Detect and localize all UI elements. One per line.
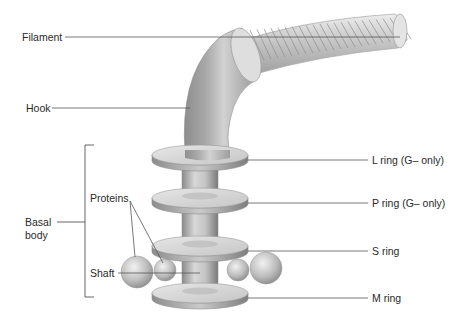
hook-label: Hook	[26, 102, 51, 114]
shaft	[182, 165, 218, 298]
protein-sphere	[121, 256, 153, 288]
proteins-label: Proteins	[90, 192, 129, 204]
l-ring-label: L ring (G– only)	[372, 154, 444, 166]
protein-sphere	[154, 259, 176, 281]
p-ring	[152, 188, 248, 214]
shaft-section	[182, 288, 218, 295]
basal-body-label-line1: Basal	[25, 216, 51, 228]
m-ring	[152, 283, 248, 309]
shaft-section	[182, 193, 218, 200]
protein-sphere	[227, 259, 249, 281]
shaft-section	[182, 241, 218, 248]
filament-label: Filament	[22, 31, 62, 43]
basal-body-bracket	[57, 145, 94, 297]
shaft-label: Shaft	[90, 267, 115, 279]
protein-sphere	[250, 252, 282, 284]
basal-body-label-line2: body	[25, 229, 48, 241]
s-ring	[152, 236, 248, 262]
p-ring-label: P ring (G– only)	[372, 197, 445, 209]
m-ring-label: M ring	[372, 292, 401, 304]
s-ring-label: S ring	[372, 245, 399, 257]
hook	[184, 24, 267, 152]
